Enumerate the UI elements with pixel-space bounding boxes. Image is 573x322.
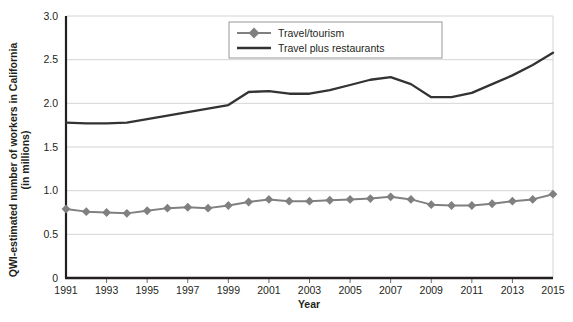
y-axis-title-line2: (in millions) xyxy=(19,131,31,190)
y-tick-label: 3.0 xyxy=(43,10,58,22)
x-tick-label: 2005 xyxy=(338,284,362,296)
legend: Travel/tourism Travel plus restaurants xyxy=(229,22,442,58)
x-tick-label: 1993 xyxy=(95,284,119,296)
y-tick-label: 0 xyxy=(52,272,58,284)
legend-label-travel-tourism: Travel/tourism xyxy=(278,27,344,39)
y-tick-label: 2.0 xyxy=(43,97,58,109)
x-tick-label: 2001 xyxy=(257,284,281,296)
x-tick-label: 1999 xyxy=(217,284,241,296)
x-tick-label: 2011 xyxy=(461,284,484,296)
x-tick-label: 1997 xyxy=(176,284,200,296)
x-tick-label: 2003 xyxy=(298,284,322,296)
y-tick-label: 0.5 xyxy=(43,228,58,240)
y-tick-label: 1.5 xyxy=(43,141,58,153)
y-tick-label: 2.5 xyxy=(43,53,58,65)
x-tick-label: 2015 xyxy=(541,284,565,296)
y-axis-title-line1: QWI-estimated number of workers in Calif… xyxy=(7,43,19,278)
legend-label-travel-plus-restaurants: Travel plus restaurants xyxy=(278,42,384,54)
x-tick-label: 2007 xyxy=(379,284,403,296)
x-tick-label: 1995 xyxy=(135,284,159,296)
x-tick-label: 2013 xyxy=(501,284,525,296)
x-tick-label: 2009 xyxy=(420,284,444,296)
chart-container: 00.51.01.52.02.53.0 19911993199519971999… xyxy=(0,0,573,322)
y-tick-label: 1.0 xyxy=(43,184,58,196)
line-chart: 00.51.01.52.02.53.0 19911993199519971999… xyxy=(0,0,573,322)
x-axis-title: Year xyxy=(298,298,320,310)
x-tick-label: 1991 xyxy=(54,284,78,296)
